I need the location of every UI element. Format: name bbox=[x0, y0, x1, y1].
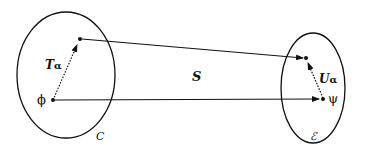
label-t-alpha: Tα bbox=[45, 59, 62, 71]
s-arrow-top bbox=[82, 39, 303, 58]
t-alpha-arrow bbox=[53, 45, 77, 100]
point-t-phi bbox=[78, 37, 82, 41]
label-set-e: ℰ bbox=[310, 131, 317, 142]
set-e-ellipse bbox=[281, 33, 345, 143]
t-main: T bbox=[45, 58, 54, 72]
u-sub: α bbox=[329, 74, 337, 85]
point-psi bbox=[321, 97, 325, 101]
label-s: S bbox=[192, 70, 201, 83]
diagram-canvas bbox=[0, 0, 365, 150]
set-c-ellipse bbox=[17, 12, 115, 138]
u-main: U bbox=[319, 72, 329, 86]
point-u-psi bbox=[304, 56, 308, 60]
s-arrow-bottom bbox=[55, 99, 319, 100]
t-sub: α bbox=[54, 60, 62, 71]
point-phi bbox=[51, 98, 55, 102]
label-psi: ψ bbox=[328, 92, 338, 105]
label-set-c: C bbox=[96, 131, 104, 142]
label-u-alpha: Uα bbox=[319, 73, 337, 85]
label-phi: ϕ bbox=[37, 93, 46, 106]
